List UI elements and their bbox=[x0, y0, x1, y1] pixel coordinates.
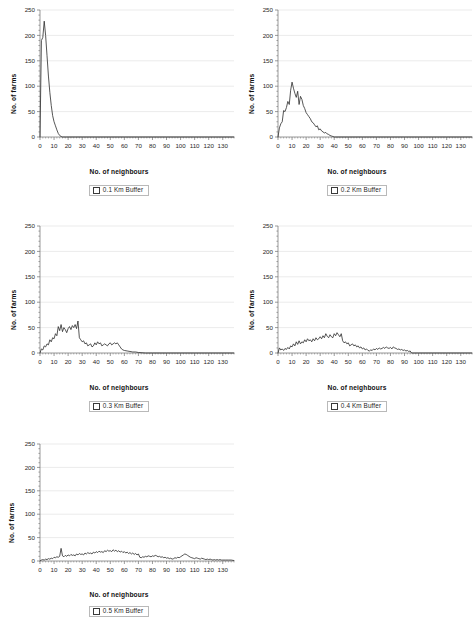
svg-text:200: 200 bbox=[263, 32, 274, 39]
svg-text:10: 10 bbox=[51, 566, 58, 573]
svg-text:70: 70 bbox=[135, 142, 142, 149]
legend-marker-icon bbox=[331, 187, 338, 194]
svg-text:80: 80 bbox=[387, 142, 394, 149]
chart-panel-0-2: No. of farms 050100150200250010203040506… bbox=[238, 2, 476, 196]
svg-text:110: 110 bbox=[190, 566, 200, 573]
svg-text:0: 0 bbox=[270, 349, 274, 356]
svg-text:40: 40 bbox=[331, 358, 338, 365]
svg-text:50: 50 bbox=[107, 142, 114, 149]
svg-text:150: 150 bbox=[263, 273, 274, 280]
legend-box-0-4[interactable]: 0.4 Km Buffer bbox=[327, 401, 387, 412]
svg-text:250: 250 bbox=[263, 222, 274, 229]
y-axis-title-0-5: No. of farms bbox=[8, 503, 15, 543]
svg-text:0: 0 bbox=[38, 142, 42, 149]
svg-text:90: 90 bbox=[163, 566, 170, 573]
x-axis-title-0-2: No. of neighbours bbox=[238, 168, 476, 175]
svg-text:60: 60 bbox=[121, 358, 128, 365]
svg-text:0: 0 bbox=[32, 557, 36, 564]
svg-text:0: 0 bbox=[276, 142, 280, 149]
svg-text:200: 200 bbox=[263, 248, 274, 255]
svg-text:250: 250 bbox=[25, 222, 36, 229]
svg-text:150: 150 bbox=[25, 57, 36, 64]
svg-text:40: 40 bbox=[93, 566, 100, 573]
chart-panel-0-1: No. of farms 050100150200250010203040506… bbox=[0, 2, 238, 196]
svg-text:100: 100 bbox=[175, 142, 186, 149]
chart-panel-0-3: No. of farms 050100150200250010203040506… bbox=[0, 218, 238, 412]
svg-text:50: 50 bbox=[28, 108, 35, 115]
svg-text:40: 40 bbox=[93, 142, 100, 149]
svg-text:130: 130 bbox=[456, 142, 467, 149]
svg-text:70: 70 bbox=[135, 358, 142, 365]
x-axis-title-0-4: No. of neighbours bbox=[238, 384, 476, 391]
svg-text:150: 150 bbox=[263, 57, 274, 64]
legend-box-0-5[interactable]: 0.5 Km Buffer bbox=[89, 606, 149, 617]
svg-text:150: 150 bbox=[25, 273, 36, 280]
svg-text:100: 100 bbox=[413, 142, 424, 149]
svg-text:100: 100 bbox=[25, 82, 36, 89]
svg-text:30: 30 bbox=[79, 142, 86, 149]
x-axis-title-0-5: No. of neighbours bbox=[0, 591, 238, 598]
svg-text:100: 100 bbox=[263, 82, 274, 89]
svg-text:110: 110 bbox=[190, 142, 200, 149]
svg-text:100: 100 bbox=[25, 298, 36, 305]
svg-text:250: 250 bbox=[25, 6, 36, 13]
svg-text:0: 0 bbox=[270, 133, 274, 140]
svg-text:60: 60 bbox=[121, 142, 128, 149]
legend-marker-icon bbox=[93, 187, 100, 194]
svg-text:50: 50 bbox=[266, 324, 273, 331]
svg-text:130: 130 bbox=[218, 566, 229, 573]
svg-text:80: 80 bbox=[149, 566, 156, 573]
svg-text:50: 50 bbox=[345, 358, 352, 365]
svg-text:50: 50 bbox=[28, 324, 35, 331]
legend-0-3: 0.3 Km Buffer bbox=[0, 401, 238, 412]
chart-svg-0-4: 0501001502002500102030405060708090100110… bbox=[238, 218, 476, 383]
legend-label-0-5: 0.5 Km Buffer bbox=[103, 608, 143, 614]
svg-text:10: 10 bbox=[289, 358, 296, 365]
legend-label-0-3: 0.3 Km Buffer bbox=[103, 403, 143, 409]
svg-text:20: 20 bbox=[303, 358, 310, 365]
svg-text:70: 70 bbox=[373, 142, 380, 149]
svg-text:130: 130 bbox=[218, 358, 229, 365]
legend-box-0-3[interactable]: 0.3 Km Buffer bbox=[89, 401, 149, 412]
svg-text:250: 250 bbox=[263, 6, 274, 13]
svg-text:30: 30 bbox=[317, 358, 324, 365]
plot-area-0-1: No. of farms 050100150200250010203040506… bbox=[0, 2, 238, 167]
svg-text:200: 200 bbox=[25, 464, 36, 471]
svg-text:200: 200 bbox=[25, 248, 36, 255]
plot-area-0-4: No. of farms 050100150200250010203040506… bbox=[238, 218, 476, 383]
y-axis-title-0-1: No. of farms bbox=[10, 74, 17, 114]
legend-0-1: 0.1 Km Buffer bbox=[0, 185, 238, 196]
svg-text:130: 130 bbox=[456, 358, 467, 365]
legend-label-0-2: 0.2 Km Buffer bbox=[341, 187, 381, 193]
svg-text:250: 250 bbox=[25, 440, 36, 447]
x-axis-title-0-3: No. of neighbours bbox=[0, 384, 238, 391]
legend-marker-icon bbox=[331, 403, 338, 410]
svg-text:10: 10 bbox=[51, 358, 58, 365]
legend-box-0-2[interactable]: 0.2 Km Buffer bbox=[327, 185, 387, 196]
svg-text:130: 130 bbox=[218, 142, 229, 149]
svg-text:50: 50 bbox=[28, 534, 35, 541]
svg-text:80: 80 bbox=[149, 142, 156, 149]
chart-panel-0-5: No. of farms 050100150200250010203040506… bbox=[0, 436, 238, 617]
svg-text:110: 110 bbox=[428, 358, 438, 365]
svg-text:60: 60 bbox=[359, 358, 366, 365]
svg-text:70: 70 bbox=[135, 566, 142, 573]
svg-text:60: 60 bbox=[359, 142, 366, 149]
svg-text:110: 110 bbox=[190, 358, 200, 365]
svg-text:120: 120 bbox=[204, 142, 215, 149]
svg-text:0: 0 bbox=[38, 566, 42, 573]
svg-text:90: 90 bbox=[401, 142, 408, 149]
svg-text:120: 120 bbox=[442, 142, 453, 149]
svg-text:110: 110 bbox=[428, 142, 438, 149]
svg-text:80: 80 bbox=[387, 358, 394, 365]
legend-marker-icon bbox=[93, 608, 100, 615]
legend-0-2: 0.2 Km Buffer bbox=[238, 185, 476, 196]
svg-text:120: 120 bbox=[204, 566, 215, 573]
legend-box-0-1[interactable]: 0.1 Km Buffer bbox=[89, 185, 149, 196]
svg-text:30: 30 bbox=[79, 358, 86, 365]
svg-text:30: 30 bbox=[317, 142, 324, 149]
chart-svg-0-1: 0501001502002500102030405060708090100110… bbox=[0, 2, 238, 167]
chart-panel-0-4: No. of farms 050100150200250010203040506… bbox=[238, 218, 476, 412]
svg-text:0: 0 bbox=[276, 358, 280, 365]
svg-text:120: 120 bbox=[204, 358, 215, 365]
